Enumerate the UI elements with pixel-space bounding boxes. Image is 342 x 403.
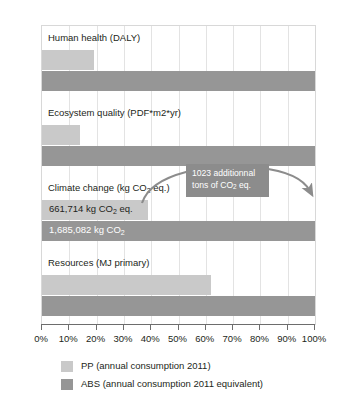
legend-swatch-abs-icon xyxy=(61,379,73,390)
x-axis-tick-label: 80% xyxy=(250,333,269,345)
category-label-ecosystem-quality: Ecosystem quality (PDF*m2*yr) xyxy=(48,107,181,118)
category-label-climate-change: Climate change (kg CO2 eq.) xyxy=(48,182,170,196)
category-label-text: Human health (DALY) xyxy=(48,32,140,43)
x-axis-tick xyxy=(96,325,97,330)
x-axis-tick xyxy=(232,325,233,330)
x-axis-tick-label: 70% xyxy=(223,333,242,345)
bar-pp-human-health[interactable] xyxy=(42,50,94,70)
bar-value-pp-climate-change: 661,714 kg CO2 eq. xyxy=(49,203,133,217)
x-axis-tick-label: 10% xyxy=(59,333,78,345)
legend-swatch-pp-icon xyxy=(61,361,73,372)
bar-value-text: 1,685,082 kg CO xyxy=(49,224,121,235)
bar-value-suffix: eq. xyxy=(117,203,133,214)
bar-pp-climate-change[interactable]: 661,714 kg CO2 eq. xyxy=(42,200,148,220)
legend-item-pp[interactable]: PP (annual consumption 2011) xyxy=(61,357,331,375)
x-axis-tick-label: 30% xyxy=(113,333,132,345)
category-group-ecosystem-quality: Ecosystem quality (PDF*m2*yr) xyxy=(42,100,315,175)
category-group-resources: Resources (MJ primary) xyxy=(42,250,315,325)
x-axis-tick-label: 90% xyxy=(277,333,296,345)
bar-chart: Human health (DALY) Ecosystem quality (P… xyxy=(0,0,342,403)
plot-area: Human health (DALY) Ecosystem quality (P… xyxy=(41,25,316,325)
x-axis-tick-label: 50% xyxy=(168,333,187,345)
category-label-text: Ecosystem quality (PDF*m2*yr) xyxy=(48,107,181,118)
x-axis-tick xyxy=(41,325,42,330)
x-axis-tick-label: 40% xyxy=(141,333,160,345)
bar-pp-resources[interactable] xyxy=(42,275,211,295)
category-label-suffix: eq.) xyxy=(151,182,170,193)
bar-value-subscript: 2 xyxy=(121,229,125,236)
bar-pp-ecosystem-quality[interactable] xyxy=(42,125,80,145)
category-label-text: Resources (MJ primary) xyxy=(48,257,149,268)
bar-abs-ecosystem-quality[interactable] xyxy=(42,146,315,166)
x-axis-tick xyxy=(314,325,315,330)
x-axis-tick xyxy=(205,325,206,330)
x-axis-tick xyxy=(259,325,260,330)
category-label-resources: Resources (MJ primary) xyxy=(48,257,149,268)
x-axis-tick xyxy=(178,325,179,330)
x-axis-tick-label: 60% xyxy=(195,333,214,345)
bar-abs-human-health[interactable] xyxy=(42,71,315,91)
legend: PP (annual consumption 2011) ABS (annual… xyxy=(61,357,331,393)
category-label-human-health: Human health (DALY) xyxy=(48,32,140,43)
x-axis-tick-label: 100% xyxy=(302,333,326,345)
category-group-climate-change: Climate change (kg CO2 eq.) 661,714 kg C… xyxy=(42,175,315,250)
x-axis-tick xyxy=(123,325,124,330)
category-label-text: Climate change (kg CO xyxy=(48,182,147,193)
x-axis-tick-label: 20% xyxy=(86,333,105,345)
bar-value-text: 661,714 kg CO xyxy=(49,203,113,214)
category-group-human-health: Human health (DALY) xyxy=(42,26,315,100)
x-axis-tick xyxy=(68,325,69,330)
legend-label-pp: PP (annual consumption 2011) xyxy=(81,360,211,372)
x-axis-tick xyxy=(150,325,151,330)
bar-abs-resources[interactable] xyxy=(42,296,315,316)
bar-value-abs-climate-change: 1,685,082 kg CO2 xyxy=(49,224,125,238)
x-axis-tick-label: 0% xyxy=(34,333,48,345)
legend-label-abs: ABS (annual consumption 2011 equivalent) xyxy=(81,378,263,390)
x-axis-tick xyxy=(287,325,288,330)
legend-item-abs[interactable]: ABS (annual consumption 2011 equivalent) xyxy=(61,375,331,393)
bar-abs-climate-change[interactable]: 1,685,082 kg CO2 xyxy=(42,221,315,241)
